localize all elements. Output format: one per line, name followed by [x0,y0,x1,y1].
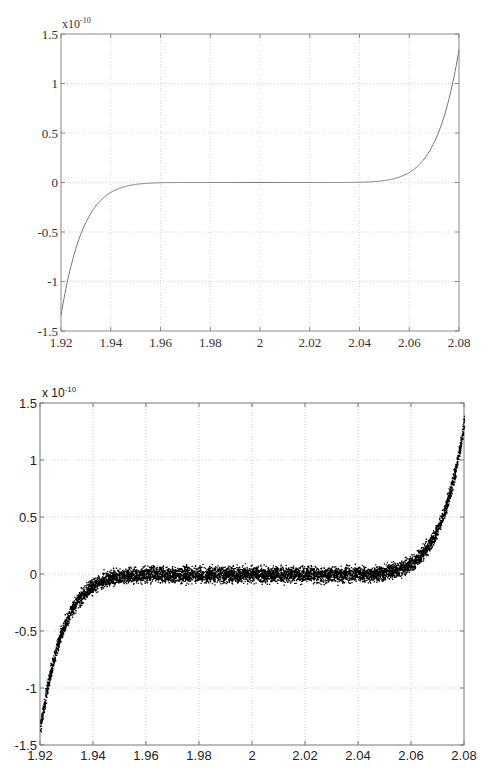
x-tick-label: 2.02 [292,748,317,763]
y-scale-multiplier: x 10-10 [42,385,77,400]
x-tick-label: 2.08 [451,748,476,763]
y-tick-label: -0.5 [37,225,58,240]
noisy-scatter-plot: 1.921.941.961.9822.022.042.062.081.510.5… [0,375,490,781]
y-tick-label: 1 [30,453,37,468]
x-tick-label: 1.98 [199,335,222,350]
x-tick-label: 1.94 [99,335,122,350]
x-tick-label: 2 [248,748,255,763]
y-tick-label: 0.5 [19,510,37,525]
noisy-scatter-chart: 1.921.941.961.9822.022.042.062.081.510.5… [0,375,490,781]
y-tick-label: 1.5 [19,396,37,411]
y-tick-label: -1 [25,681,37,696]
y-tick-label: 1 [52,76,59,91]
y-tick-label: 1.5 [42,27,58,42]
y-tick-label: -1.5 [15,738,37,753]
y-tick-label: 0 [52,175,59,190]
smooth-curve-chart: 1.921.941.961.9822.022.042.062.081.510.5… [0,0,490,370]
y-scale-multiplier: x10-10 [62,16,91,31]
x-tick-label: 2 [257,335,264,350]
x-tick-label: 1.94 [80,748,105,763]
x-tick-label: 1.98 [186,748,211,763]
y-tick-label: 0 [30,567,37,582]
x-tick-label: 2.06 [398,748,423,763]
y-tick-label: -1 [47,274,58,289]
x-tick-label: 2.08 [448,335,471,350]
x-tick-label: 1.96 [149,335,172,350]
smooth-curve-plot: 1.921.941.961.9822.022.042.062.081.510.5… [0,0,490,370]
x-tick-label: 2.04 [348,335,371,350]
x-tick-label: 2.02 [298,335,321,350]
y-tick-label: 0.5 [42,126,58,141]
x-tick-label: 2.06 [398,335,421,350]
x-tick-label: 1.96 [133,748,158,763]
y-tick-label: -0.5 [15,624,37,639]
x-tick-label: 2.04 [345,748,370,763]
y-tick-label: -1.5 [37,324,58,339]
curve-line [61,50,459,316]
